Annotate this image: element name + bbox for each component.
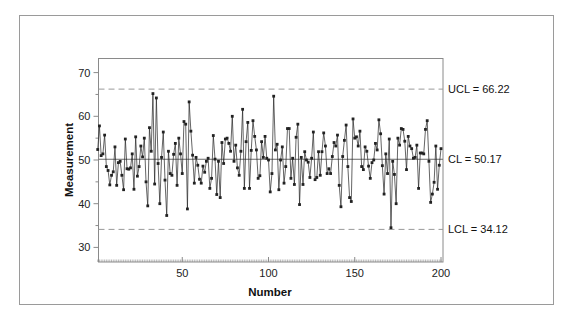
data-point: [148, 126, 151, 129]
data-point: [367, 165, 370, 168]
data-point: [214, 158, 217, 161]
data-point: [284, 165, 287, 168]
data-point: [352, 118, 355, 121]
data-point: [184, 123, 187, 126]
data-point: [221, 141, 224, 144]
data-point: [334, 145, 337, 148]
data-point: [324, 145, 327, 148]
data-point: [257, 177, 260, 180]
data-point: [246, 121, 249, 124]
data-point: [276, 143, 279, 146]
data-point: [146, 204, 149, 207]
data-point: [303, 150, 306, 153]
data-point: [322, 132, 325, 135]
data-point: [407, 135, 410, 138]
lcl-label: LCL = 34.12: [448, 223, 508, 235]
data-point: [415, 144, 418, 147]
data-point: [219, 196, 222, 199]
data-point: [327, 167, 330, 170]
data-point: [133, 188, 136, 191]
data-point: [105, 165, 108, 168]
data-point: [388, 138, 391, 141]
data-point: [238, 174, 241, 177]
data-point: [277, 188, 280, 191]
data-point: [181, 172, 184, 175]
data-point: [208, 187, 211, 190]
data-point: [341, 155, 344, 158]
data-point: [165, 214, 168, 217]
data-point: [102, 152, 105, 155]
data-point: [217, 160, 220, 163]
data-point: [153, 183, 156, 186]
data-point: [171, 174, 174, 177]
data-point: [186, 208, 189, 211]
data-point: [436, 188, 439, 191]
data-point: [152, 92, 155, 95]
data-point: [241, 108, 244, 111]
data-point: [176, 184, 179, 187]
data-point: [269, 191, 272, 194]
data-point: [414, 156, 417, 159]
data-point: [293, 183, 296, 186]
data-point: [234, 144, 237, 147]
data-point: [183, 120, 186, 123]
data-point: [381, 164, 384, 167]
data-point: [160, 156, 163, 159]
data-point: [207, 157, 210, 160]
data-point: [369, 177, 372, 180]
data-point: [274, 149, 277, 152]
data-point: [198, 178, 201, 181]
data-point: [205, 160, 208, 163]
y-tick-label: 70: [78, 67, 90, 79]
data-point: [236, 166, 239, 169]
data-point: [233, 160, 236, 163]
data-point: [295, 136, 298, 139]
data-point: [391, 160, 394, 163]
data-point: [403, 140, 406, 143]
y-axis-title: Measurement: [63, 123, 75, 197]
data-point: [255, 149, 258, 152]
data-point: [145, 180, 148, 183]
data-point: [279, 159, 282, 162]
data-point: [96, 148, 99, 151]
data-point: [422, 152, 425, 155]
data-point: [364, 145, 367, 148]
data-point: [155, 97, 158, 100]
y-tick-label: 40: [78, 198, 90, 210]
data-point: [440, 147, 443, 150]
cl-label: CL = 50.17: [448, 153, 502, 165]
data-point: [384, 152, 387, 155]
data-point: [433, 181, 436, 184]
data-point: [191, 154, 194, 157]
data-point: [260, 140, 263, 143]
data-point: [390, 226, 393, 229]
data-point: [215, 193, 218, 196]
data-point: [243, 187, 246, 190]
data-point: [374, 142, 377, 145]
data-point: [428, 160, 431, 163]
data-point: [202, 165, 205, 168]
data-point: [298, 203, 301, 206]
data-point: [429, 201, 432, 204]
data-point: [296, 123, 299, 126]
data-point: [348, 196, 351, 199]
data-point: [288, 127, 291, 130]
data-point: [115, 184, 118, 187]
data-point: [307, 161, 310, 164]
data-point: [409, 145, 412, 148]
data-point: [326, 172, 329, 175]
data-point: [360, 165, 363, 168]
x-tick-label: 200: [432, 267, 450, 279]
data-point: [426, 119, 429, 122]
data-point: [107, 169, 110, 172]
data-point: [240, 150, 243, 153]
data-point: [434, 145, 437, 148]
data-point: [333, 141, 336, 144]
data-point: [267, 159, 270, 162]
data-point: [122, 188, 125, 191]
data-point: [312, 131, 315, 134]
data-point: [438, 164, 441, 167]
data-point: [110, 174, 113, 177]
data-point: [200, 182, 203, 185]
data-point: [365, 150, 368, 153]
